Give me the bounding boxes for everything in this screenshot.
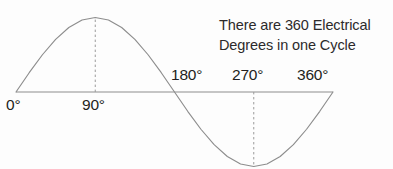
annotation-line-1: There are 360 Electrical (219, 18, 371, 33)
x-tick-label-0-degrees: 0° (6, 97, 20, 113)
x-tick-label-270-degrees: 270° (232, 67, 263, 83)
x-tick-label-90-degrees: 90° (82, 97, 105, 113)
x-tick-label-180-degrees: 180° (171, 67, 202, 83)
annotation-line-2: Degrees in one Cycle (219, 38, 356, 53)
sine-wave-figure: 0° 90° 180° 270° 360° There are 360 Elec… (0, 0, 393, 169)
x-tick-label-360-degrees: 360° (297, 67, 328, 83)
